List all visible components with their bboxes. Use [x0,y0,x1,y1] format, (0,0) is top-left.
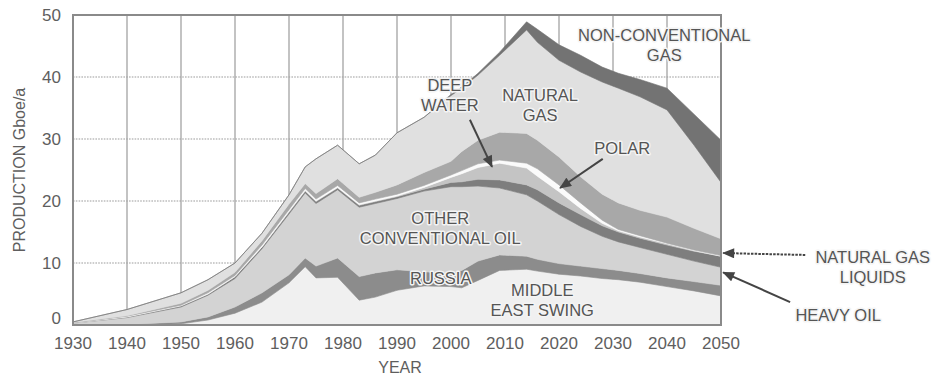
annotation-label: GAS [523,106,558,124]
annotation-label: WATER [421,96,479,114]
x-tick-label: 1980 [324,334,362,353]
x-tick-label: 2010 [486,334,524,353]
x-tick-label: 1950 [162,334,200,353]
x-tick-label: 1960 [216,334,254,353]
y-tick-label: 0 [52,309,61,328]
x-tick-label: 2050 [702,334,740,353]
annotation-label: LIQUIDS [840,268,906,286]
y-tick-label: 30 [42,130,61,149]
y-tick-label: 40 [42,68,61,87]
annotation-label: OTHER [411,209,469,227]
x-tick-label: 2000 [432,334,470,353]
x-axis-ticks: 1930194019501960197019801990200020102020… [54,334,740,353]
annotation-label: NON-CONVENTIONAL [578,26,750,44]
x-tick-label: 2030 [594,334,632,353]
annotation-label: HEAVY OIL [795,306,881,324]
annotation-label: MIDDLE [511,281,573,299]
annotation-label: GAS [647,46,682,64]
oil-gas-production-chart: 01020304050 1930194019501960197019801990… [0,0,947,382]
y-tick-label: 20 [42,192,61,211]
x-tick-label: 1990 [378,334,416,353]
annotation-label: NATURAL [502,86,578,104]
y-axis-title: PRODUCTION Gboe/a [11,88,28,253]
y-tick-label: 50 [42,6,61,25]
x-tick-label: 1940 [108,334,146,353]
x-tick-label: 1930 [54,334,92,353]
x-axis-title: YEAR [378,359,422,376]
annotation-label: CONVENTIONAL OIL [360,229,521,247]
x-tick-label: 2040 [648,334,686,353]
x-tick-label: 2020 [540,334,578,353]
annotation-russia: RUSSIA [410,269,471,287]
annotation-label: DEEP [427,76,472,94]
annotation-label: POLAR [594,139,650,157]
annotation-label: RUSSIA [410,269,471,287]
annotation-non-conventional-gas: NON-CONVENTIONALGAS [578,26,750,64]
annotation-label: EAST SWING [491,301,594,319]
annotation-label: NATURAL GAS [815,248,930,266]
annotation-natural-gas-liquids: NATURAL GASLIQUIDS [723,248,930,286]
y-tick-label: 10 [42,254,61,273]
arrow-icon [723,272,790,302]
x-tick-label: 1970 [270,334,308,353]
arrow-icon [723,253,805,255]
y-axis-ticks: 01020304050 [42,6,61,328]
chart-figure: 01020304050 1930194019501960197019801990… [0,0,947,382]
